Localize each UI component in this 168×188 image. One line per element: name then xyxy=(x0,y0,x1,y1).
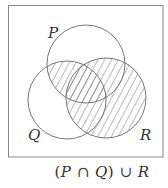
caption-q: Q xyxy=(95,163,108,181)
set-r-label: R xyxy=(139,126,151,144)
caption-intersect-symbol: ∩ xyxy=(71,163,95,181)
diagram-caption: (P ∩ Q) ∪ R xyxy=(0,163,168,181)
venn-diagram: P Q R xyxy=(0,0,168,188)
set-q-label: Q xyxy=(28,126,40,144)
caption-r: R xyxy=(138,163,150,181)
set-p-label: P xyxy=(47,24,59,42)
caption-p: P xyxy=(61,163,72,181)
caption-union-symbol: ∪ xyxy=(114,163,138,181)
